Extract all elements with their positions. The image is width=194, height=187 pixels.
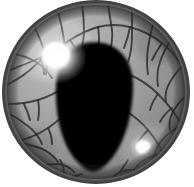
image-canvas: Grayscale close-up of an animal eye with… bbox=[0, 0, 194, 187]
eye-illustration: Grayscale close-up of an animal eye with… bbox=[0, 0, 194, 187]
limbus-rim bbox=[2, 0, 190, 184]
eyeball bbox=[2, 0, 190, 184]
